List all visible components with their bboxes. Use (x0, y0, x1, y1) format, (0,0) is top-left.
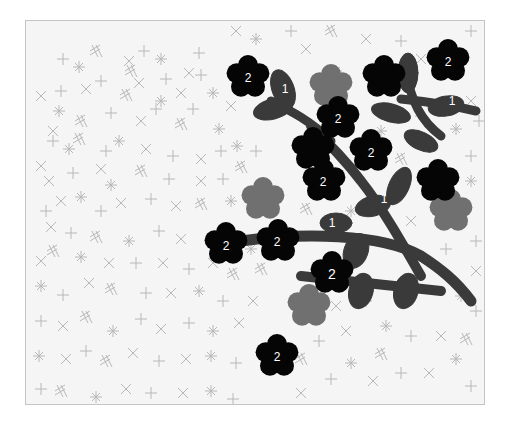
label-branch-main: 1 (329, 216, 336, 230)
label-flower-left-b: 2 (274, 235, 281, 249)
label-flower-center-right: 2 (368, 146, 375, 160)
label-flower-top-left: 2 (245, 71, 252, 85)
flower-branch-illustration: 2 2 2 2 2 2 2 2 2 1 1 1 1 (26, 21, 485, 405)
label-leaf-top-right: 1 (449, 94, 456, 108)
label-flower-top-right: 2 (445, 55, 452, 69)
label-flower-lower: 2 (328, 266, 336, 282)
label-leaf-middle: 1 (381, 192, 388, 206)
label-leaf-top: 1 (282, 82, 289, 96)
label-flower-bottom: 2 (274, 350, 281, 364)
illustration-frame: 2 2 2 2 2 2 2 2 2 1 1 1 1 (25, 20, 485, 405)
label-flower-left-a: 2 (223, 239, 230, 253)
gray-flower (242, 177, 285, 219)
label-flower-mid-upper: 2 (335, 112, 342, 126)
label-flower-center-left: 2 (320, 175, 327, 189)
